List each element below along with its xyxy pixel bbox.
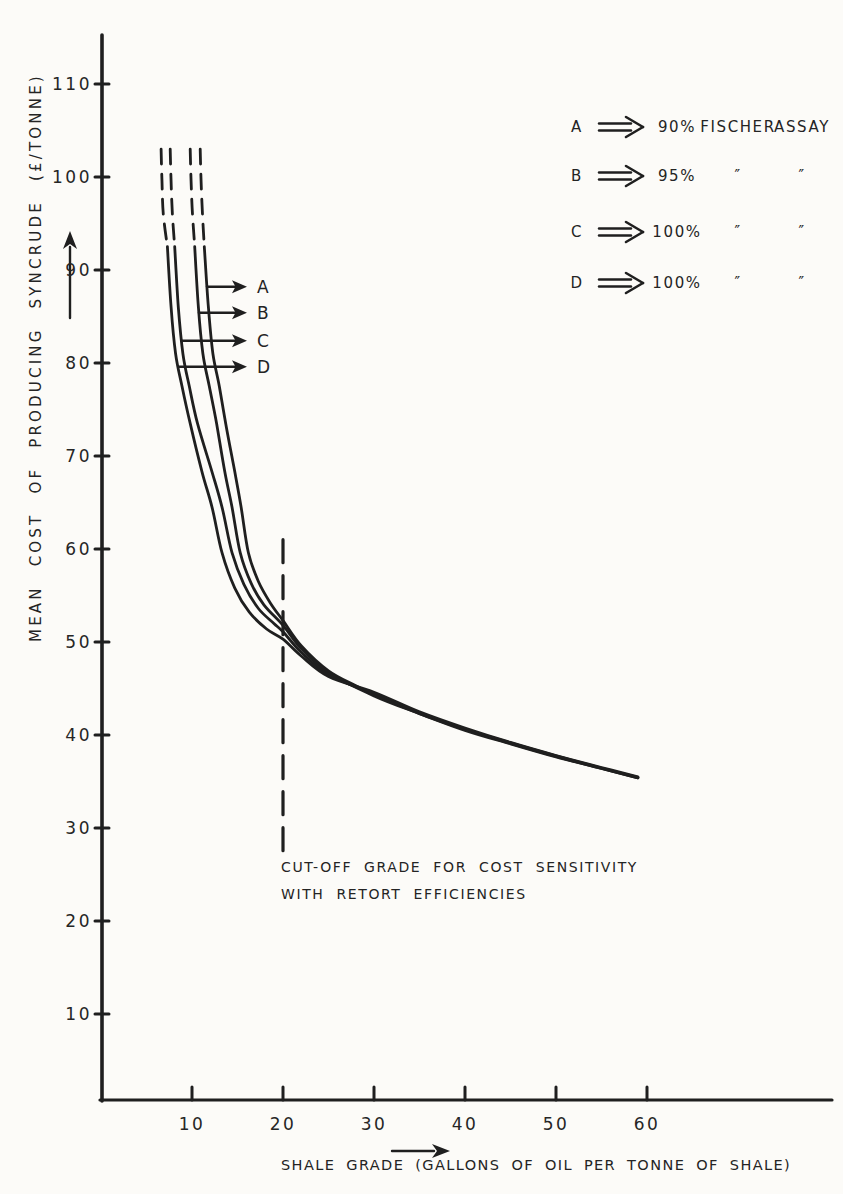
legend-col3-A: ASSAY — [774, 115, 830, 139]
curve-A-dashed-extension — [200, 149, 204, 247]
x-tick-label: 10 — [168, 1112, 216, 1136]
y-tick-label: 40 — [38, 723, 92, 747]
y-tick-label: 30 — [38, 816, 92, 840]
legend-arrowhead-C-upper — [626, 222, 643, 232]
legend-arrowhead-D-upper — [626, 273, 643, 283]
legend-letter-A: A — [564, 115, 590, 139]
legend-arrowhead-D-lower — [626, 283, 643, 293]
curve-C-dashed-extension — [170, 149, 175, 247]
legend-col2-D: ″ — [696, 271, 780, 295]
legend-arrowhead-C-lower — [626, 232, 643, 242]
legend-arrowhead-A-upper — [626, 117, 643, 127]
cutoff-annotation: CUT-OFF GRADE FOR COST SENSITIVITY WITH … — [281, 854, 638, 908]
x-tick-label: 20 — [259, 1112, 307, 1136]
legend-letter-B: B — [564, 164, 590, 188]
cutoff-annotation-line2: WITH RETORT EFFICIENCIES — [281, 881, 638, 908]
legend-col2-A: FISCHER — [696, 115, 780, 139]
x-axis-title: SHALE GRADE (GALLONS OF OIL PER TONNE OF… — [281, 1157, 743, 1173]
y-tick-label: 80 — [38, 351, 92, 375]
legend-arrowhead-B-lower — [626, 176, 643, 186]
x-tick-label: 50 — [532, 1112, 580, 1136]
curve-letter-D: D — [257, 357, 271, 377]
y-tick-label: 90 — [38, 258, 92, 282]
legend-col3-C: ″ — [774, 220, 830, 244]
curve-C — [175, 247, 638, 778]
curve-D-dashed-extension — [161, 149, 167, 247]
curve-letter-B: B — [257, 303, 270, 323]
curve-letter-A: A — [257, 277, 270, 297]
x-tick-label: 60 — [623, 1112, 671, 1136]
legend-arrowhead-B-upper — [626, 166, 643, 176]
curve-letter-C: C — [257, 331, 270, 351]
y-tick-label: 110 — [38, 72, 92, 96]
legend-col2-C: ″ — [696, 220, 780, 244]
curve-A — [204, 247, 638, 778]
legend-letter-C: C — [564, 220, 590, 244]
legend-col3-B: ″ — [774, 164, 830, 188]
cutoff-annotation-line1: CUT-OFF GRADE FOR COST SENSITIVITY — [281, 854, 638, 881]
curve-B — [195, 247, 638, 778]
legend-col2-B: ″ — [696, 164, 780, 188]
legend-col3-D: ″ — [774, 271, 830, 295]
x-tick-label: 30 — [350, 1112, 398, 1136]
y-tick-label: 10 — [38, 1002, 92, 1026]
y-tick-label: 70 — [38, 444, 92, 468]
curve-D — [167, 247, 638, 777]
y-tick-label: 100 — [38, 165, 92, 189]
y-tick-label: 20 — [38, 909, 92, 933]
legend-letter-D: D — [564, 271, 590, 295]
scanned-cost-curve-figure: ABCD MEAN COST OF PRODUCING SYNCRUDE (£/… — [0, 0, 843, 1194]
x-tick-label: 40 — [441, 1112, 489, 1136]
y-tick-label: 60 — [38, 537, 92, 561]
curve-B-dashed-extension — [190, 149, 195, 247]
x-axis-title-text: SHALE GRADE (GALLONS OF OIL PER TONNE OF… — [281, 1157, 791, 1173]
legend-arrowhead-A-lower — [626, 127, 643, 137]
y-tick-label: 50 — [38, 630, 92, 654]
